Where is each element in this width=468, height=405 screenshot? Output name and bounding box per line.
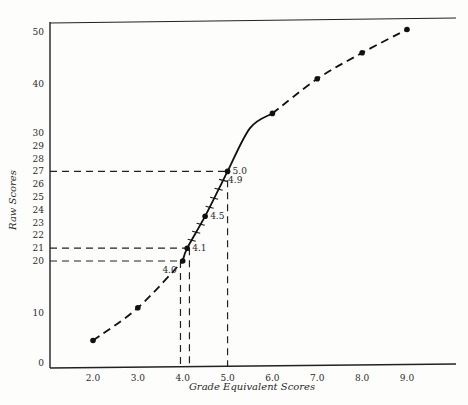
point-annotation: 5.0 bbox=[233, 166, 248, 176]
top-frame-line bbox=[50, 18, 456, 23]
y-tick-label: 40 bbox=[33, 79, 45, 89]
y-tick-label: 22 bbox=[33, 230, 44, 240]
data-point bbox=[184, 245, 190, 251]
y-tick-label: 25 bbox=[33, 192, 45, 202]
chart: 4.04.14.54.95.0 2.03.04.05.06.07.08.09.0… bbox=[0, 0, 468, 405]
y-axis-label: Raw Scores bbox=[7, 170, 18, 231]
y-tick-label: 27 bbox=[33, 166, 45, 176]
y-tick-label: 50 bbox=[33, 27, 45, 37]
data-point bbox=[359, 50, 365, 56]
x-tick-label: 2.0 bbox=[86, 373, 101, 383]
y-tick-labels: 01020212223242526272829304050 bbox=[33, 27, 45, 368]
x-axis-line bbox=[50, 364, 456, 368]
point-annotation: 4.1 bbox=[192, 243, 206, 253]
axes bbox=[50, 18, 456, 368]
point-annotation: 4.9 bbox=[228, 175, 243, 185]
y-tick-label: 29 bbox=[33, 141, 45, 151]
data-point bbox=[225, 169, 231, 175]
annotations: 4.04.14.54.95.0 bbox=[162, 166, 247, 275]
y-tick-label: 10 bbox=[33, 308, 45, 318]
data-point bbox=[180, 258, 186, 264]
data-point bbox=[404, 27, 410, 33]
y-tick-label: 24 bbox=[33, 205, 45, 215]
x-tick-label: 9.0 bbox=[400, 373, 415, 383]
data-point bbox=[202, 213, 208, 219]
series-line-extrapolated-upper bbox=[272, 30, 407, 114]
point-annotation: 4.5 bbox=[210, 211, 225, 221]
y-tick-label: 30 bbox=[33, 128, 45, 138]
markers bbox=[90, 27, 410, 344]
y-tick-label: 0 bbox=[38, 358, 44, 368]
x-axis-label: Grade Equivalent Scores bbox=[189, 381, 315, 392]
y-tick-label: 26 bbox=[33, 179, 45, 189]
y-tick-label: 23 bbox=[33, 218, 45, 228]
y-tick-label: 28 bbox=[33, 154, 45, 164]
data-point bbox=[314, 76, 320, 82]
y-tick-label: 20 bbox=[33, 256, 45, 266]
data-point bbox=[270, 111, 276, 117]
y-tick-label: 21 bbox=[33, 243, 44, 253]
reference-lines bbox=[50, 171, 228, 366]
data-point bbox=[90, 338, 96, 344]
point-annotation: 4.0 bbox=[162, 265, 177, 275]
data-point bbox=[135, 305, 141, 311]
curves bbox=[93, 30, 407, 341]
x-tick-label: 3.0 bbox=[131, 373, 146, 383]
x-tick-label: 8.0 bbox=[355, 373, 370, 383]
